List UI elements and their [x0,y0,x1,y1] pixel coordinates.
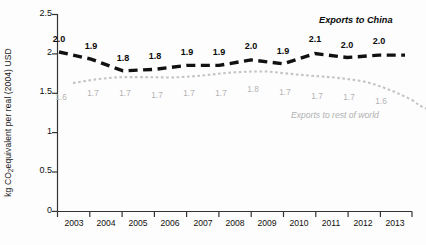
y-tick-marks [52,15,58,212]
point-label-row-2012: 1.7 [336,93,362,102]
point-label-china-2013: 2.0 [366,36,392,46]
point-label-china-2006: 1.8 [142,51,168,61]
point-label-row-2007: 1.7 [176,89,202,98]
point-label-china-2003: 2.0 [46,34,72,44]
point-label-china-2005: 1.8 [110,53,136,63]
point-label-row-2008: 1.7 [208,89,234,98]
chart-container: kg CO2 equivalent per real (2004) USD 2.… [0,0,426,245]
point-label-row-2009: 1.8 [240,85,266,94]
point-label-row-2004: 1.7 [80,89,106,98]
point-label-china-2011: 2.1 [302,34,328,44]
point-label-row-2011: 1.7 [304,92,330,101]
x-tick-marks [58,212,413,218]
point-label-china-2012: 2.0 [334,40,360,50]
point-label-china-2010: 1.9 [270,46,296,56]
series-annotation-exports-rest-of-world: Exports to rest of world [291,110,379,120]
point-label-row-2005: 1.7 [112,89,138,98]
point-label-row-2006: 1.7 [144,91,170,100]
point-label-row-2013: 1.6 [368,97,394,106]
point-label-row-2003: 1.6 [48,93,74,102]
point-label-row-2010: 1.7 [272,88,298,97]
point-label-china-2009: 2.0 [238,41,264,51]
series-annotation-exports-to-china: Exports to China [319,15,393,25]
point-label-china-2004: 1.9 [78,41,104,51]
point-label-china-2008: 1.9 [206,47,232,57]
point-label-china-2007: 1.9 [174,47,200,57]
